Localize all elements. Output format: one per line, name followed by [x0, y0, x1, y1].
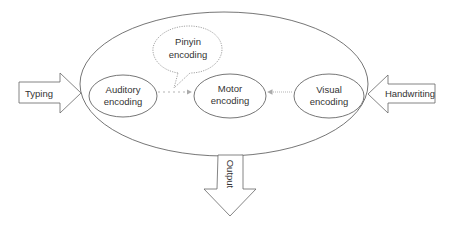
visual-encoding-node: Visual encoding — [294, 74, 364, 118]
visual-encoding-label-line1: Visual — [316, 84, 342, 95]
auditory-encoding-label-line1: Auditory — [106, 84, 141, 95]
typing-input-arrow: Typing — [19, 73, 81, 113]
output-arrow: Output — [204, 155, 256, 216]
motor-encoding-node: Motor encoding — [194, 74, 266, 118]
motor-encoding-label-line1: Motor — [218, 83, 242, 94]
pinyin-encoding-label-line2: encoding — [169, 49, 208, 60]
output-label: Output — [225, 160, 236, 189]
typing-label: Typing — [25, 88, 53, 99]
motor-encoding-label-line2: encoding — [211, 95, 250, 106]
handwriting-label: Handwriting — [385, 88, 435, 99]
visual-encoding-label-line2: encoding — [310, 96, 349, 107]
auditory-encoding-label-line2: encoding — [104, 96, 143, 107]
diagram-canvas: Typing Handwriting Output Pinyin encodin… — [0, 0, 452, 226]
auditory-encoding-node: Auditory encoding — [89, 75, 157, 117]
handwriting-input-arrow: Handwriting — [368, 75, 435, 113]
pinyin-encoding-label-line1: Pinyin — [175, 36, 201, 47]
